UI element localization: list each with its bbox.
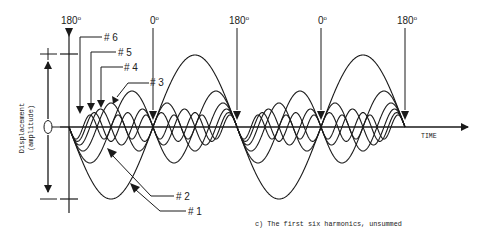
phase-label: 0o bbox=[318, 15, 328, 26]
phase-marker-3: 0o bbox=[317, 15, 328, 120]
arrowhead-6-icon bbox=[76, 106, 84, 114]
y-axis-label: Displacement (amplitude) bbox=[18, 103, 35, 153]
time-axis-label: TIME bbox=[421, 133, 437, 140]
phase-label: 0o bbox=[150, 15, 160, 26]
origin-marker-icon bbox=[44, 121, 52, 134]
leader-3 bbox=[117, 83, 149, 97]
phase-label: 180o bbox=[229, 15, 250, 26]
arrowhead-3-icon bbox=[112, 96, 119, 104]
harmonics-diagram: TIME Displacement (amplitude) 180o0o180o… bbox=[0, 0, 488, 241]
figure-caption: c) The first six harmonics, unsummed bbox=[255, 220, 402, 228]
label-harmonic-5: # 5 bbox=[118, 47, 132, 58]
harmonic-labels: # 6 # 5 # 4 # 3 # 2 # 1 bbox=[76, 32, 202, 217]
arrowhead-4-icon bbox=[97, 100, 105, 108]
phase-marker-2: 180o bbox=[229, 15, 250, 120]
phase-marker-4: 180o bbox=[397, 15, 418, 120]
phase-label: 180o bbox=[61, 15, 82, 26]
arrowhead-1-icon bbox=[130, 183, 140, 193]
label-harmonic-4: # 4 bbox=[124, 62, 138, 73]
label-harmonic-6: # 6 bbox=[104, 32, 118, 43]
arrowhead-5-icon bbox=[87, 103, 95, 111]
phase-label: 180o bbox=[397, 15, 418, 26]
label-harmonic-2: # 2 bbox=[176, 191, 190, 202]
leader-2 bbox=[113, 156, 174, 196]
arrowhead-2-icon bbox=[107, 148, 117, 158]
y-axis-label-line1: Displacement bbox=[18, 103, 26, 153]
y-axis-label-line2: (amplitude) bbox=[27, 105, 35, 151]
label-harmonic-3: # 3 bbox=[150, 77, 164, 88]
phase-marker-0: 180o bbox=[61, 15, 82, 37]
phase-marker-1: 0o bbox=[149, 15, 160, 120]
leader-4 bbox=[101, 67, 123, 101]
phase-arrow-icon bbox=[65, 28, 73, 37]
label-harmonic-1: # 1 bbox=[188, 206, 202, 217]
